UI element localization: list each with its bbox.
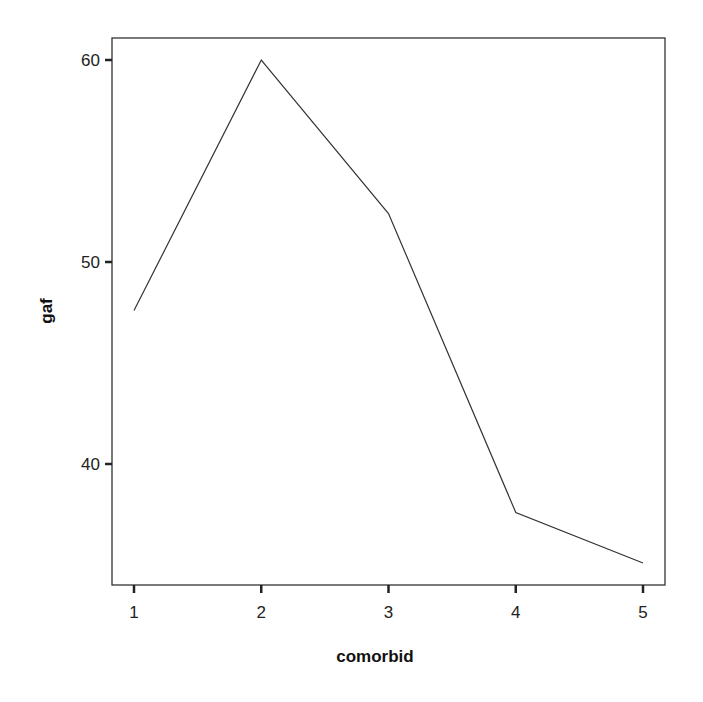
y-axis-ticks: 405060 — [81, 51, 112, 474]
x-axis-ticks: 12345 — [129, 585, 647, 622]
x-tick-label: 5 — [638, 603, 647, 622]
x-tick-label: 4 — [511, 603, 520, 622]
x-tick-label: 3 — [384, 603, 393, 622]
plot-frame — [112, 38, 665, 585]
y-tick-label: 40 — [81, 455, 100, 474]
y-tick-label: 60 — [81, 51, 100, 70]
y-axis-title: gaf — [37, 298, 56, 324]
x-tick-label: 1 — [129, 603, 138, 622]
x-axis-title: comorbid — [336, 647, 413, 666]
line-chart: 405060 12345 comorbid gaf — [0, 0, 703, 702]
data-line — [134, 60, 643, 563]
x-tick-label: 2 — [257, 603, 266, 622]
y-tick-label: 50 — [81, 253, 100, 272]
